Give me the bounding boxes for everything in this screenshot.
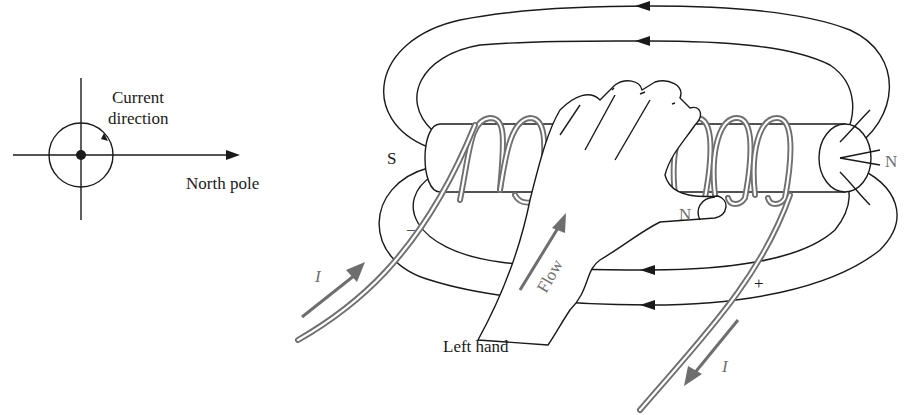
north-pole-label-rod: N [885, 152, 897, 171]
current-label-line2: direction [108, 109, 169, 128]
left-hand-rule-diagram: Current direction North pole [0, 0, 912, 415]
south-pole-label: S [387, 149, 396, 168]
current-out-label: I [721, 357, 729, 376]
arrowhead-bottom-outer [640, 300, 655, 310]
thumb-north-label: N [679, 205, 691, 224]
current-in-arrow: I [302, 262, 365, 317]
north-pole-label: North pole [186, 174, 259, 193]
current-label-line1: Current [112, 88, 164, 107]
current-in-label: I [314, 267, 322, 286]
positive-terminal-label: + [754, 274, 764, 293]
current-direction-figure: Current direction North pole [13, 78, 259, 220]
negative-terminal-label: − [406, 221, 416, 240]
conductor-dot [76, 150, 86, 160]
arrowhead-bottom-inner [640, 265, 655, 275]
north-arrow-head [226, 150, 240, 160]
rod-north-end-face [819, 124, 871, 192]
arrowhead-top-outer [635, 1, 650, 11]
arrowhead-top-inner [635, 36, 650, 46]
hand-label: Left hand [443, 337, 509, 356]
